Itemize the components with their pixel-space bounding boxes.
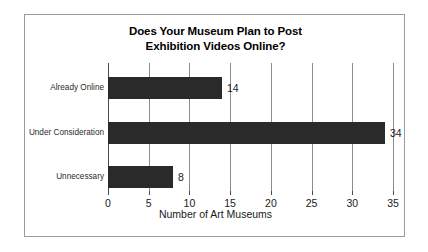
category-axis-labels: Already Online Under Consideration Unnec… <box>0 63 104 191</box>
category-label-already-online: Already Online <box>0 77 104 99</box>
tick-25 <box>312 191 313 195</box>
tick-0 <box>108 191 109 195</box>
bar-unnecessary <box>108 166 173 188</box>
chart-frame: Does Your Museum Plan to Post Exhibition… <box>24 14 405 237</box>
bar-value-under-consideration: 34 <box>390 122 402 144</box>
tick-10 <box>189 191 190 195</box>
plot-area: 0 5 10 15 20 25 30 35 14 34 8 Already On… <box>108 63 393 191</box>
x-axis-title: Number of Art Museums <box>25 208 406 220</box>
bar-under-consideration <box>108 122 385 144</box>
tick-20 <box>271 191 272 195</box>
tick-30 <box>352 191 353 195</box>
chart-title-line-2: Exhibition Videos Online? <box>25 39 406 54</box>
tick-5 <box>149 191 150 195</box>
tick-15 <box>230 191 231 195</box>
chart-title: Does Your Museum Plan to Post Exhibition… <box>25 24 406 53</box>
bar-already-online <box>108 77 222 99</box>
bar-value-unnecessary: 8 <box>178 166 184 188</box>
category-label-under-consideration: Under Consideration <box>0 122 104 144</box>
bar-value-already-online: 14 <box>227 77 239 99</box>
chart-title-line-1: Does Your Museum Plan to Post <box>25 24 406 39</box>
tick-35 <box>393 191 394 195</box>
category-label-unnecessary: Unnecessary <box>0 166 104 188</box>
